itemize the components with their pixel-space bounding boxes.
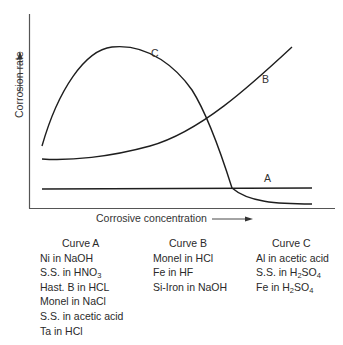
legend-item: Fe in H2SO4: [256, 280, 329, 295]
legend-item: Monel in HCl: [153, 251, 227, 266]
legend-item: Fe in HF: [153, 265, 227, 280]
x-axis-arrow-icon: [245, 217, 253, 222]
legend-item: S.S. in H2SO4: [256, 265, 329, 280]
legend-curve-b: Curve B Monel in HCl Fe in HF Si-Iron in…: [153, 236, 227, 294]
legend-item: Al in acetic acid: [256, 251, 329, 266]
legend-item: S.S. in HNO3: [40, 265, 152, 280]
legend-curve-c: Curve C Al in acetic acid S.S. in H2SO4 …: [256, 236, 329, 294]
curve-label-b: B: [262, 73, 269, 85]
legend-item: S.S. in acetic acid: [40, 309, 152, 324]
curve-label-a: A: [264, 172, 271, 184]
x-axis-label: Corrosive concentration: [96, 212, 207, 224]
legend-item: Ta in HCl: [40, 324, 152, 339]
y-axis-label: Corrosion rate: [13, 51, 25, 118]
legend-item: Monel in NaCl: [40, 294, 152, 309]
legend-curve-a: Curve A Ni in NaOH S.S. in HNO3 Hast. B …: [40, 236, 152, 338]
curve-label-c: C: [151, 47, 159, 59]
curve-a: [42, 188, 312, 189]
legend-curve-a-title: Curve A: [40, 236, 152, 251]
legend-item: Ni in NaOH: [40, 251, 152, 266]
legend-item: Hast. B in HCL: [40, 280, 152, 295]
legend-item: Si-Iron in NaOH: [153, 280, 227, 295]
y-axis-label-group: Corrosion rate: [13, 51, 25, 118]
legend-curve-c-title: Curve C: [256, 236, 329, 251]
legend-curve-b-title: Curve B: [153, 236, 227, 251]
curve-c: [42, 47, 312, 204]
